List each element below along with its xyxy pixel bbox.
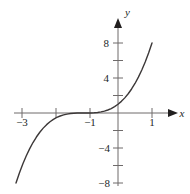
x-tick-label-neg3: −3 [16,116,28,128]
graph-figure: −3 −1 1 8 4 −4 −8 y x [0,0,190,194]
x-axis-label: x [179,107,185,119]
y-tick-label-pos4: 4 [104,72,110,84]
y-axis-label: y [124,6,130,18]
x-tick-label-pos1: 1 [149,116,155,128]
cubic-function-plot: −3 −1 1 8 4 −4 −8 y x [0,0,190,194]
x-tick-label-neg1: −1 [84,116,96,128]
plot-background [0,0,190,194]
y-tick-label-neg4: −4 [98,142,110,154]
y-tick-label-neg8: −8 [98,177,110,189]
y-tick-label-pos8: 8 [104,37,110,49]
